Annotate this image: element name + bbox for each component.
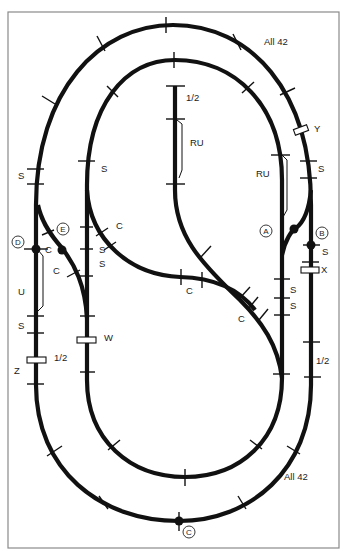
label-s-inner-left-1: S: [99, 244, 105, 255]
marker-z: [27, 357, 46, 363]
junction-label-a: A: [260, 225, 272, 237]
label-center-half: 1/2: [186, 92, 199, 103]
junction-e-dot: [58, 246, 67, 255]
label-c-inner-left: C: [116, 220, 123, 231]
svg-text:A: A: [263, 227, 269, 236]
center-ru-outline: [177, 120, 182, 178]
inner-ticks: [78, 52, 290, 486]
svg-text:E: E: [60, 225, 65, 234]
label-s-left-outer-bottom: S: [18, 320, 24, 331]
inner-loop-track: [87, 60, 282, 477]
label-all42-top: All 42: [264, 36, 288, 47]
svg-text:C: C: [186, 528, 192, 537]
junction-label-c: C: [183, 526, 195, 538]
label-s-left-inner-top: S: [101, 163, 107, 174]
marker-x: [301, 267, 319, 273]
svg-text:B: B: [319, 229, 324, 238]
label-left-half: 1/2: [54, 352, 67, 363]
label-z: Z: [14, 365, 20, 376]
label-center-ru: RU: [190, 137, 204, 148]
label-s-right-outer-top: S: [318, 163, 324, 174]
label-s-right-inner-2: S: [290, 300, 296, 311]
label-u: U: [18, 286, 25, 297]
label-x: X: [321, 264, 328, 275]
label-c-center: C: [186, 285, 193, 296]
u-siding-outline: [38, 250, 43, 311]
junction-label-b: B: [316, 227, 328, 239]
label-right-ru: RU: [256, 168, 270, 179]
junction-label-d: D: [12, 236, 24, 248]
label-all42-bottom: All 42: [284, 471, 308, 482]
label-s-right-b: S: [322, 246, 328, 257]
junction-a-dot: [290, 225, 299, 234]
label-right-half: 1/2: [316, 355, 329, 366]
label-c-d: C: [45, 244, 52, 255]
track-layout-diagram: D E A B C All 42 All 42 1/2 RU RU Y X W …: [0, 0, 343, 553]
label-s-inner-left-2: S: [99, 258, 105, 269]
marker-y: [293, 125, 308, 135]
siding-ticks: [42, 86, 268, 320]
marker-w: [77, 337, 96, 343]
label-s-left-outer-top: S: [18, 170, 24, 181]
left-crossover-track: [38, 205, 87, 318]
label-y: Y: [314, 123, 321, 134]
svg-text:D: D: [15, 238, 21, 247]
label-c-right-lower: C: [238, 313, 245, 324]
label-w: W: [104, 332, 113, 343]
label-c-e: C: [53, 265, 60, 276]
label-s-right-inner-1: S: [290, 284, 296, 295]
junction-c-dot: [175, 517, 184, 526]
junction-label-e: E: [57, 223, 69, 235]
